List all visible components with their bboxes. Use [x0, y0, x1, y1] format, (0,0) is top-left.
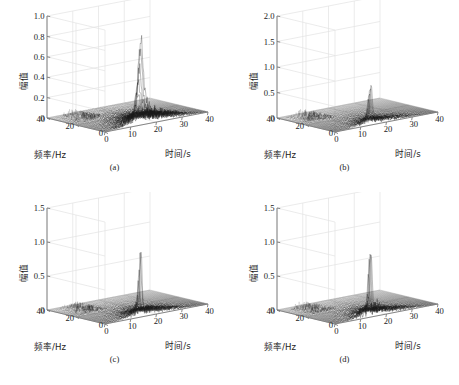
svg-text:幅值: 幅值	[248, 264, 259, 282]
svg-text:频率/Hz: 频率/Hz	[34, 149, 66, 160]
svg-text:0: 0	[99, 320, 103, 330]
grid-line	[47, 57, 50, 58]
svg-text:20: 20	[65, 313, 74, 323]
grid-line	[277, 276, 280, 277]
panel-caption-b: (b)	[230, 162, 459, 172]
svg-text:40: 40	[435, 306, 444, 316]
svg-text:30: 30	[179, 119, 188, 129]
svg-text:20: 20	[65, 121, 74, 131]
svg-text:10: 10	[128, 321, 137, 331]
svg-text:0: 0	[334, 326, 338, 336]
svg-text:10: 10	[358, 129, 367, 139]
grid-line	[277, 208, 280, 209]
grid-line	[47, 208, 50, 209]
panel-c: 00.51.01.5幅值40200频率/Hz010203040时间/s(c)	[0, 192, 229, 384]
grid-line	[47, 16, 50, 17]
grid-line	[47, 242, 50, 243]
svg-text:1.5: 1.5	[264, 203, 275, 213]
grid-line	[47, 98, 50, 99]
svg-text:0.5: 0.5	[264, 271, 275, 281]
svg-text:1.5: 1.5	[34, 203, 45, 213]
grid-line	[277, 67, 280, 68]
svg-text:1.0: 1.0	[34, 11, 45, 21]
svg-text:40: 40	[266, 306, 275, 316]
svg-text:0: 0	[104, 134, 108, 144]
svg-text:40: 40	[266, 114, 275, 124]
grid-line	[277, 42, 280, 43]
svg-text:频率/Hz: 频率/Hz	[34, 341, 66, 352]
svg-text:时间/s: 时间/s	[395, 148, 421, 159]
panel-caption-c: (c)	[0, 354, 229, 364]
svg-text:1.0: 1.0	[264, 62, 275, 72]
svg-text:0.2: 0.2	[34, 93, 45, 103]
grid-line	[277, 242, 280, 243]
svg-text:20: 20	[154, 124, 163, 134]
svg-text:0: 0	[329, 320, 333, 330]
panel-d: 00.51.01.5幅值40200频率/Hz010203040时间/s(d)	[230, 192, 459, 384]
svg-text:30: 30	[409, 119, 418, 129]
svg-text:20: 20	[384, 124, 393, 134]
svg-text:0: 0	[329, 128, 333, 138]
svg-text:20: 20	[154, 316, 163, 326]
svg-text:10: 10	[128, 129, 137, 139]
grid-line	[47, 77, 50, 78]
spectrum-slice	[104, 253, 207, 324]
svg-text:0.4: 0.4	[34, 72, 45, 82]
svg-text:时间/s: 时间/s	[165, 340, 191, 351]
svg-text:20: 20	[295, 121, 304, 131]
svg-text:30: 30	[409, 311, 418, 321]
svg-text:40: 40	[36, 306, 45, 316]
svg-text:40: 40	[205, 114, 214, 124]
svg-text:0: 0	[104, 326, 108, 336]
svg-text:频率/Hz: 频率/Hz	[264, 149, 296, 160]
svg-text:1.5: 1.5	[264, 37, 275, 47]
svg-text:幅值: 幅值	[18, 72, 29, 90]
grid-line	[277, 93, 280, 94]
panel-b: 00.51.01.52.0幅值40200频率/Hz010203040时间/s(b…	[230, 0, 459, 192]
svg-text:幅值: 幅值	[18, 264, 29, 282]
panel-caption-a: (a)	[0, 162, 229, 172]
svg-text:1.0: 1.0	[264, 237, 275, 247]
svg-text:2.0: 2.0	[264, 11, 275, 21]
svg-text:幅值: 幅值	[248, 72, 259, 90]
grid-line	[47, 36, 50, 37]
svg-text:0.6: 0.6	[34, 52, 45, 62]
panel-caption-d: (d)	[230, 354, 459, 364]
svg-text:1.0: 1.0	[34, 237, 45, 247]
svg-text:30: 30	[179, 311, 188, 321]
svg-text:0.5: 0.5	[264, 88, 275, 98]
figure-container: 00.20.40.60.81.0幅值40200频率/Hz010203040时间/…	[0, 0, 459, 385]
svg-text:10: 10	[358, 321, 367, 331]
svg-text:40: 40	[205, 306, 214, 316]
svg-text:40: 40	[435, 114, 444, 124]
svg-text:0.5: 0.5	[34, 271, 45, 281]
svg-text:20: 20	[384, 316, 393, 326]
svg-text:0: 0	[99, 128, 103, 138]
grid-line	[47, 276, 50, 277]
svg-text:时间/s: 时间/s	[165, 148, 191, 159]
svg-text:40: 40	[36, 114, 45, 124]
svg-text:频率/Hz: 频率/Hz	[264, 341, 296, 352]
svg-text:0.8: 0.8	[34, 32, 45, 42]
panel-a: 00.20.40.60.81.0幅值40200频率/Hz010203040时间/…	[0, 0, 229, 192]
svg-text:时间/s: 时间/s	[395, 340, 421, 351]
svg-text:20: 20	[295, 313, 304, 323]
svg-text:0: 0	[334, 134, 338, 144]
grid-line	[277, 16, 280, 17]
waterfall-traces	[47, 35, 208, 132]
